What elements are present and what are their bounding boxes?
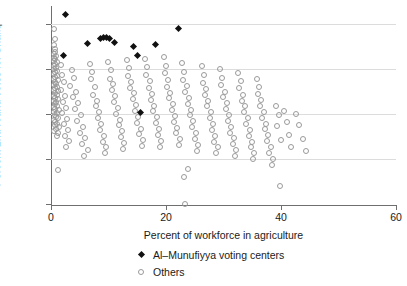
data-point-other [74,118,80,124]
data-point-munufiyya [134,52,141,59]
data-point-other [202,92,208,98]
data-point-other [155,132,161,138]
data-point-other [139,143,145,149]
data-point-other [55,167,61,173]
data-point-other [161,54,167,60]
data-point-other [65,127,71,133]
legend-label-munufiyya: Al–Munufiyya voting centers [149,249,284,261]
data-point-other [148,97,154,103]
data-point-other [142,56,148,62]
data-point-other [303,148,309,154]
data-point-other [181,69,187,75]
data-point-other [212,133,218,139]
x-axis-tick-label: 60 [381,212,407,223]
data-point-other [180,77,186,83]
data-point-other [277,183,283,189]
data-point-other [108,67,114,73]
data-point-other [185,101,191,107]
data-point-other [124,57,130,63]
data-point-other [59,72,65,78]
legend-label-others: Others [149,266,185,278]
data-point-other [80,124,86,130]
data-point-other [238,78,244,84]
data-point-other [171,119,177,125]
data-point-other [71,75,77,81]
data-point-other [288,144,294,150]
data-point-other [163,63,169,69]
data-point-other [259,115,265,121]
data-point-other [51,26,57,32]
data-point-other [218,82,224,88]
y-axis-tick [46,114,51,115]
data-point-other [126,65,132,71]
data-point-other [77,130,83,136]
data-point-other [147,78,153,84]
data-point-other [63,144,69,150]
data-point-other [66,138,72,144]
data-point-munufiyya [84,40,91,47]
data-point-other [69,67,75,73]
x-axis-ticks: 0204060 [51,205,396,229]
data-point-other [257,103,263,109]
data-point-other [60,99,66,105]
data-point-other [185,166,191,172]
data-point-munufiyya [130,43,137,50]
data-point-other [90,92,96,98]
data-point-other [143,72,149,78]
data-point-other [236,85,242,91]
data-point-munufiyya [152,41,159,48]
data-point-other [250,156,256,162]
data-point-other [111,99,117,105]
data-point-other [52,36,58,42]
data-point-other [209,127,215,133]
data-point-other [78,112,84,118]
gridline [51,69,396,70]
data-point-other [200,80,206,86]
data-point-other [92,84,98,90]
data-point-other [281,108,287,114]
data-point-other [58,62,64,68]
data-point-other [62,93,68,99]
data-point-other [278,137,284,143]
data-point-other [162,70,168,76]
data-point-other [176,142,182,148]
data-point-other [157,144,163,150]
data-point-other [286,132,292,138]
data-point-other [201,72,207,78]
data-point-other [61,121,67,127]
legend-item-munufiyya: Al–Munufiyya voting centers [133,246,284,263]
data-point-other [59,110,65,116]
data-point-other [158,138,164,144]
data-point-other [300,136,306,142]
x-axis-tick-label: 40 [266,212,296,223]
data-point-other [246,133,252,139]
data-point-other [102,150,108,156]
data-point-other [120,146,126,152]
gridline [51,159,396,160]
open-circle-icon [133,269,149,275]
data-point-other [256,84,262,90]
data-point-other [115,105,121,111]
data-point-other [61,79,67,85]
data-point-other [97,127,103,133]
data-point-other [54,133,60,139]
data-point-other [88,76,94,82]
data-point-other [213,150,219,156]
y-axis-title: Percent 2nd round votes for Shafiq [0,24,2,186]
data-point-other [181,174,187,180]
data-point-other [79,141,85,147]
data-point-other [228,124,234,130]
data-point-other [192,136,198,142]
data-point-other [199,63,205,69]
data-point-other [255,91,261,97]
x-axis-tick [166,205,167,210]
data-point-other [89,69,95,75]
data-point-other [72,106,78,112]
data-point-other [276,112,282,118]
data-point-other [70,94,76,100]
x-axis-tick-label: 0 [36,212,66,223]
data-point-other [186,95,192,101]
data-point-other [165,77,171,83]
data-point-other [134,120,140,126]
